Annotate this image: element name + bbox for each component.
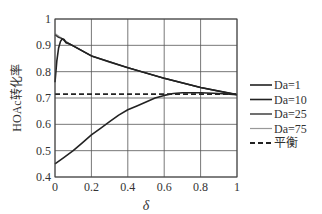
grid: [55, 19, 237, 177]
series-line-2: [55, 35, 237, 95]
x-tick-label: 0.6: [157, 180, 172, 194]
y-tick-label: 1: [45, 12, 51, 26]
x-tick-label: 0.2: [84, 180, 99, 194]
x-tick-label: 1: [234, 180, 240, 194]
y-tick-label: 0.4: [36, 170, 51, 184]
legend-label: Da=10: [274, 93, 307, 107]
x-axis-label: δ: [143, 198, 150, 213]
y-axis-label: HOAc转化率: [9, 64, 24, 131]
y-tick-label: 0.7: [36, 91, 51, 105]
legend-label: Da=75: [274, 122, 307, 136]
x-tick-label: 0.4: [120, 180, 135, 194]
legend-label: Da=1: [274, 78, 301, 92]
series-lines: [55, 34, 237, 164]
chart: 00.20.40.60.810.40.50.60.70.80.91δHOAc转化…: [0, 0, 322, 214]
legend-label: Da=25: [274, 107, 307, 121]
y-tick-label: 0.6: [36, 117, 51, 131]
y-tick-label: 0.8: [36, 65, 51, 79]
series-line-1: [55, 39, 237, 95]
legend: Da=1Da=10Da=25Da=75平衡: [250, 78, 307, 150]
y-tick-label: 0.5: [36, 144, 51, 158]
series-line-3: [55, 34, 237, 95]
x-tick-label: 0: [52, 180, 58, 194]
legend-label: 平衡: [274, 136, 298, 150]
y-tick-label: 0.9: [36, 38, 51, 52]
series-line-0: [55, 93, 237, 164]
x-tick-label: 0.8: [193, 180, 208, 194]
